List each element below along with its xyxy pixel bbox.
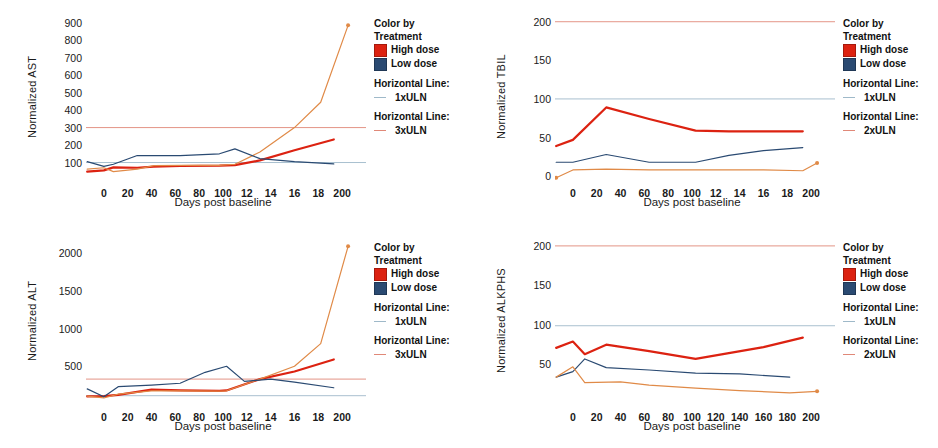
legend-title-line2: Treatment [843,31,938,44]
y-tick-label: 200 [507,17,551,28]
legend-alkphs: Color byTreatmentHigh doseLow doseHorizo… [843,242,938,361]
low-dose-swatch-icon [843,58,856,71]
legend-title-line1: Color by [843,18,938,31]
legend-horizontal-line-header: Horizontal Line: [374,302,484,315]
legend-spacer [374,295,484,302]
legend-spacer [374,104,484,111]
y-tick-label: 50 [507,133,551,144]
high-dose-swatch-icon [843,268,856,281]
chart-panel-tbil: Normalized TBIL0501001502000204060801001… [469,0,938,224]
legend-label-low-dose: Low dose [391,282,437,295]
legend-title-line1: Color by [843,242,938,255]
chart-panel-alt: Normalized ALT50010001500200002040608010… [0,224,469,448]
data-point-marker [815,389,819,393]
plot-container-tbil [555,14,837,190]
legend-horizontal-line-header: Horizontal Line: [374,78,484,91]
x-axis-title: Days post baseline [555,196,829,208]
legend-label-low-dose: Low dose [391,58,437,71]
high-dose-swatch-icon [374,268,387,281]
legend-horizontal-line-header: Horizontal Line: [374,111,484,124]
legend-title-line2: Treatment [374,31,484,44]
y-tick-label: 800 [38,35,82,46]
series-line [556,148,803,163]
y-axis-title: Normalized TBIL [495,14,507,180]
legend-label-ref1: 1xULN [864,92,896,105]
data-point-marker [555,176,558,180]
legend-title-line2: Treatment [374,255,484,268]
x-axis-title: Days post baseline [86,196,360,208]
legend-item-ref1[interactable]: 1xULN [843,92,938,105]
y-tick-label: 2000 [38,248,82,259]
reference-line-swatch-icon [843,97,855,98]
legend-alt: Color byTreatmentHigh doseLow doseHorizo… [374,242,484,361]
low-dose-swatch-icon [374,282,387,295]
y-tick-label: 400 [38,105,82,116]
legend-tbil: Color byTreatmentHigh doseLow doseHorizo… [843,18,938,137]
y-tick-label: 100 [507,320,551,331]
y-tick-label: 700 [38,53,82,64]
legend-horizontal-line-header: Horizontal Line: [843,78,938,91]
y-tick-label: 50 [507,359,551,370]
y-tick-label: 500 [38,361,82,372]
legend-title-line2: Treatment [843,255,938,268]
legend-item-ref2[interactable]: 3xULN [374,125,484,138]
legend-item-ref2[interactable]: 2xULN [843,349,938,362]
reference-line-swatch-icon [374,97,386,98]
low-dose-swatch-icon [374,58,387,71]
low-dose-swatch-icon [843,282,856,295]
chart-panel-alkphs: Normalized ALKPHS50100150200020406080100… [469,224,938,448]
legend-title-line1: Color by [374,242,484,255]
legend-item-high-dose[interactable]: High dose [374,268,484,281]
y-axis-title: Normalized AST [26,14,38,180]
reference-line-swatch-icon [843,130,855,131]
high-dose-swatch-icon [843,44,856,57]
legend-item-ref2[interactable]: 3xULN [374,349,484,362]
y-tick-label: 1000 [38,324,82,335]
legend-horizontal-line-header: Horizontal Line: [843,302,938,315]
legend-horizontal-line-header: Horizontal Line: [843,335,938,348]
legend-item-low-dose[interactable]: Low dose [843,282,938,295]
legend-label-high-dose: High dose [391,268,439,281]
plot-area [86,238,368,414]
legend-item-ref1[interactable]: 1xULN [843,316,938,329]
legend-label-high-dose: High dose [391,44,439,57]
y-tick-label: 150 [507,55,551,66]
series-line [87,25,348,171]
legend-item-low-dose[interactable]: Low dose [374,282,484,295]
legend-item-ref1[interactable]: 1xULN [374,316,484,329]
high-dose-swatch-icon [374,44,387,57]
legend-label-ref2: 3xULN [395,349,427,362]
legend-label-ref2: 2xULN [864,125,896,138]
plot-container-ast [86,14,368,190]
legend-item-ref1[interactable]: 1xULN [374,92,484,105]
reference-line-swatch-icon [374,130,386,131]
series-line [87,246,348,398]
series-line [556,163,817,178]
legend-item-low-dose[interactable]: Low dose [843,58,938,71]
legend-item-low-dose[interactable]: Low dose [374,58,484,71]
y-tick-label: 600 [38,70,82,81]
legend-spacer [374,71,484,78]
legend-spacer [843,328,938,335]
legend-label-low-dose: Low dose [860,282,906,295]
series-line [87,149,334,166]
data-point-marker [815,161,819,165]
y-tick-label: 200 [507,241,551,252]
legend-item-high-dose[interactable]: High dose [843,44,938,57]
y-tick-label: 150 [507,280,551,291]
legend-horizontal-line-header: Horizontal Line: [843,111,938,124]
legend-spacer [374,328,484,335]
reference-line-swatch-icon [374,354,386,355]
reference-line-swatch-icon [843,321,855,322]
chart-grid: Normalized AST10020030040050060070080090… [0,0,938,448]
y-tick-label: 100 [38,158,82,169]
legend-item-ref2[interactable]: 2xULN [843,125,938,138]
legend-item-high-dose[interactable]: High dose [843,268,938,281]
series-line [87,139,334,171]
plot-area [86,14,368,190]
legend-item-high-dose[interactable]: High dose [374,44,484,57]
plot-container-alkphs [555,238,837,414]
legend-spacer [843,295,938,302]
y-axis-title: Normalized ALT [26,238,38,404]
legend-spacer [843,104,938,111]
